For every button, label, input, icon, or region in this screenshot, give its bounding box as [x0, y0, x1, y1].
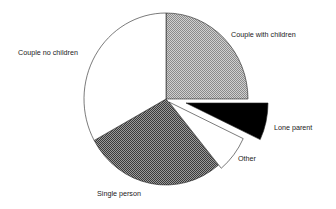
slice-label-couple-with-children: Couple with children	[231, 30, 296, 39]
pie-chart: Couple with children Lone parent Other S…	[0, 0, 336, 209]
slice-label-other: Other	[238, 154, 257, 163]
slice-label-couple-no-children: Couple no children	[18, 48, 78, 57]
pie-slice-couple-with-children	[166, 13, 248, 99]
slice-label-lone-parent: Lone parent	[274, 123, 312, 132]
slice-label-single-person: Single person	[97, 189, 141, 198]
